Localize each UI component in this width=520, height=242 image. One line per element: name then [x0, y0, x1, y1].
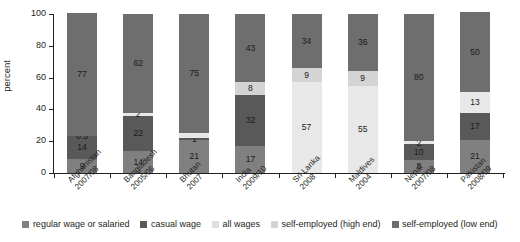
bar-segment[interactable]: 50: [460, 12, 490, 92]
bar-column[interactable]: 21171350: [460, 14, 490, 173]
bar-segment-value: 13: [470, 98, 479, 107]
x-axis-tick: [166, 173, 167, 178]
legend-swatch-icon: [212, 221, 219, 228]
y-axis-tick-label: 0: [0, 167, 46, 177]
x-axis-tick: [447, 173, 448, 178]
bar-column[interactable]: 55936: [348, 14, 378, 173]
bar-segment[interactable]: 75: [179, 14, 209, 133]
x-axis-tick: [54, 173, 55, 178]
bar-column[interactable]: 1732843: [235, 14, 265, 173]
y-axis-tick: [49, 173, 53, 174]
x-axis-tick: [391, 173, 392, 178]
y-axis-tick-label: 100: [0, 8, 46, 18]
bar-segment-value: 62: [133, 59, 142, 68]
bar-segment-value: 43: [246, 44, 255, 53]
x-axis-tick: [335, 173, 336, 178]
y-axis-tick: [49, 46, 53, 47]
bar-segment-value: 50: [470, 48, 479, 57]
legend-item[interactable]: regular wage or salaried: [22, 219, 129, 229]
bar-segment-value: 55: [358, 125, 367, 134]
bar-segment-value: 75: [190, 69, 199, 78]
bar-segment-value: 80: [414, 73, 423, 82]
bar-segment-value: 9: [304, 71, 309, 80]
bar-segment-value: 17: [470, 122, 479, 131]
legend-item[interactable]: all wages: [212, 219, 260, 229]
bar-segment-value: 10: [414, 148, 423, 157]
bar-column[interactable]: 9140.577: [67, 14, 97, 173]
legend-swatch-icon: [271, 221, 278, 228]
bar-segment-value: 32: [246, 116, 255, 125]
bar-segment[interactable]: 1: [179, 138, 209, 140]
bar-segment[interactable]: 80: [404, 14, 434, 141]
bar-segment-value: 9: [360, 74, 365, 83]
y-axis-tick: [49, 78, 53, 79]
legend-label: regular wage or salaried: [33, 219, 130, 229]
y-axis-tick: [49, 109, 53, 110]
legend-swatch-icon: [392, 221, 399, 228]
bar-segment-value: 77: [77, 70, 86, 79]
bar-column[interactable]: 810280: [404, 14, 434, 173]
legend-item[interactable]: self-employed (high end): [271, 219, 381, 229]
plot-area: 9140.57714222622117517328435793455936810…: [54, 14, 503, 173]
bar-segment[interactable]: 13: [460, 92, 490, 113]
bar-segment[interactable]: [179, 133, 209, 138]
y-axis-tick-label: 60: [0, 72, 46, 82]
legend-swatch-icon: [140, 221, 147, 228]
legend-label: self-employed (high end): [282, 219, 381, 229]
bar-segment[interactable]: 9: [292, 68, 322, 82]
bar-segment[interactable]: 8: [235, 82, 265, 95]
bar-segment[interactable]: 32: [235, 95, 265, 146]
x-axis-tick: [110, 173, 111, 178]
bar-segment[interactable]: 36: [348, 14, 378, 71]
chart-legend: regular wage or salariedcasual wageall w…: [0, 219, 520, 229]
legend-item[interactable]: self-employed (low end): [392, 219, 498, 229]
bar-segment[interactable]: 62: [123, 14, 153, 113]
bar-segment-value: 36: [358, 38, 367, 47]
legend-label: all wages: [222, 219, 260, 229]
y-axis-tick-label: 40: [0, 103, 46, 113]
stacked-bar-chart: percent 020406080100 9140.57714222622117…: [0, 0, 520, 242]
bar-segment-value: 21: [190, 152, 199, 161]
bar-segment[interactable]: 77: [67, 13, 97, 135]
y-axis-tick: [49, 14, 53, 15]
legend-label: self-employed (low end): [402, 219, 498, 229]
bar-segment[interactable]: 2: [404, 141, 434, 144]
x-axis-tick: [222, 173, 223, 178]
bar-segment[interactable]: 22: [123, 116, 153, 151]
bar-segment[interactable]: 9: [348, 71, 378, 85]
y-axis-tick: [49, 141, 53, 142]
bar-segment-value: 22: [133, 129, 142, 138]
bar-segment[interactable]: 2: [123, 113, 153, 116]
bar-column[interactable]: 57934: [292, 14, 322, 173]
legend-item[interactable]: casual wage: [140, 219, 201, 229]
bar-segment[interactable]: 17: [460, 113, 490, 140]
legend-label: casual wage: [151, 219, 201, 229]
x-axis-tick: [503, 173, 504, 178]
bar-segment[interactable]: 43: [235, 14, 265, 82]
legend-swatch-icon: [22, 221, 29, 228]
y-axis-tick-label: 80: [0, 40, 46, 50]
bar-segment-value: 14: [77, 143, 86, 152]
x-axis-tick: [279, 173, 280, 178]
y-axis-tick-label: 20: [0, 135, 46, 145]
bar-segment-value: 57: [302, 123, 311, 132]
bar-segment-value: 34: [302, 37, 311, 46]
bar-column[interactable]: 21175: [179, 14, 209, 173]
bar-column[interactable]: 1422262: [123, 14, 153, 173]
bar-segment[interactable]: 34: [292, 14, 322, 68]
bar-segment-value: 8: [248, 84, 253, 93]
